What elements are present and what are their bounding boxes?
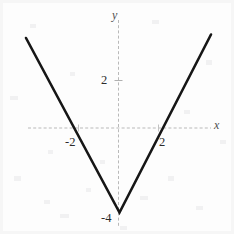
x-tick-label-2: 2 [159,136,165,149]
absolute-value-curve [26,35,211,213]
x-tick-label-minus-2: -2 [65,136,75,149]
x-axis-label: x [214,119,219,131]
vertex-value-label: -4 [101,212,111,225]
y-axis-label: y [112,9,117,21]
graph-figure: y x 2 -2 2 -4 [0,0,234,234]
plot-area [0,0,234,234]
y-tick-label-2: 2 [101,74,107,87]
